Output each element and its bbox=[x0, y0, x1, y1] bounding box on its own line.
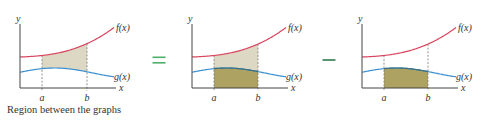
g-label: g(x) bbox=[456, 71, 473, 83]
g-curve bbox=[20, 68, 114, 77]
panel-area-under-f: yxf(x)g(x)ab bbox=[187, 13, 303, 103]
f-label: f(x) bbox=[116, 22, 131, 34]
caption-region-between-graphs: Region between the graphs bbox=[7, 104, 121, 115]
minus-sign bbox=[323, 59, 336, 61]
x-axis-label: x bbox=[118, 82, 124, 93]
g-label: g(x) bbox=[286, 71, 303, 83]
y-axis-label: y bbox=[357, 13, 363, 24]
panel-area-under-g: yxf(x)g(x)ab bbox=[357, 13, 473, 103]
area-between-curves-diagram: yxf(x)g(x)abyxf(x)g(x)abyxf(x)g(x)ab Reg… bbox=[0, 0, 483, 120]
x-axis-label: x bbox=[460, 82, 466, 93]
panel-region-between-graphs: yxf(x)g(x)ab bbox=[15, 13, 131, 103]
area-under-g-fill bbox=[384, 68, 428, 88]
g-label: g(x) bbox=[114, 71, 131, 83]
diagram-canvas: yxf(x)g(x)abyxf(x)g(x)abyxf(x)g(x)ab bbox=[0, 0, 483, 120]
equals-sign bbox=[153, 57, 166, 64]
x-axis-label: x bbox=[290, 82, 296, 93]
b-label: b bbox=[256, 92, 261, 103]
f-curve bbox=[362, 28, 456, 57]
a-label: a bbox=[212, 92, 217, 103]
a-label: a bbox=[40, 92, 45, 103]
y-axis-label: y bbox=[187, 13, 193, 24]
b-label: b bbox=[426, 92, 431, 103]
f-label: f(x) bbox=[458, 22, 473, 34]
a-label: a bbox=[382, 92, 387, 103]
f-label: f(x) bbox=[288, 22, 303, 34]
y-axis-label: y bbox=[15, 13, 21, 24]
b-label: b bbox=[85, 92, 90, 103]
area-under-g-overlap-fill bbox=[214, 68, 258, 88]
